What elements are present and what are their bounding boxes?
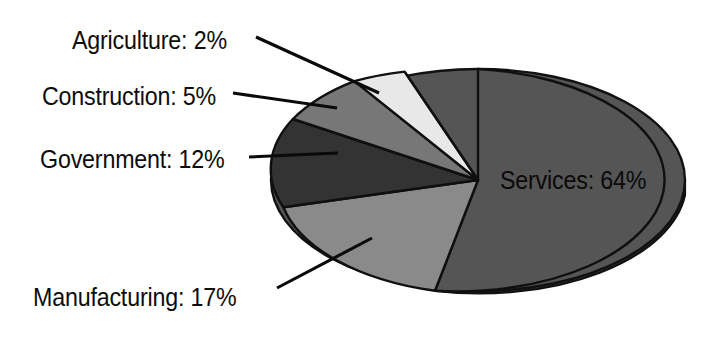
leader-line-agriculture (256, 37, 379, 93)
slice-label-services: Services: 64% (500, 168, 646, 193)
slice-label-agriculture: Agriculture: 2% (72, 28, 227, 53)
pie-chart-figure: Agriculture: 2% Construction: 5% Governm… (0, 0, 726, 338)
slice-label-construction: Construction: 5% (42, 84, 216, 109)
slice-label-manufacturing: Manufacturing: 17% (33, 285, 236, 310)
slice-label-government: Government: 12% (40, 147, 225, 172)
